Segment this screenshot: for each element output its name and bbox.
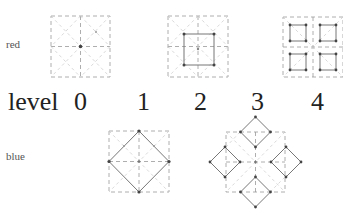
blue-level-1-figure — [107, 129, 170, 193]
red-level-0-figure — [51, 16, 110, 77]
red-level-2-figure — [168, 16, 228, 77]
subdivision-diagram — [0, 0, 343, 210]
blue-level-3-figure — [209, 116, 303, 209]
red-level-4-figure — [283, 17, 343, 77]
